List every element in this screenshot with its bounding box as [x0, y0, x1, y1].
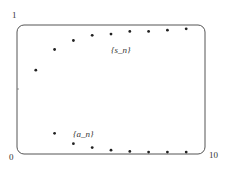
origin-label: 0: [9, 152, 14, 162]
data-point: [147, 151, 150, 154]
data-point: [110, 149, 113, 152]
a-series-label: {a_n}: [73, 129, 94, 139]
data-point: [128, 150, 131, 153]
data-point: [72, 39, 75, 42]
data-point: [72, 142, 75, 145]
data-point: [166, 29, 169, 32]
x-max-label: 10: [209, 150, 219, 160]
y-max-label: 1: [12, 10, 17, 20]
data-point: [147, 30, 150, 33]
data-point: [91, 34, 94, 37]
s-series-label: {s_n}: [111, 45, 131, 55]
data-point: [53, 48, 56, 51]
data-point: [110, 33, 113, 36]
data-point: [34, 69, 37, 72]
data-point: [185, 27, 188, 30]
data-point: [128, 30, 131, 33]
data-point: [91, 146, 94, 149]
scatter-chart: 1 0 10 {s_n} {a_n}: [0, 0, 225, 169]
data-point: [185, 151, 188, 154]
data-point: [166, 151, 169, 154]
data-point: [53, 132, 56, 135]
